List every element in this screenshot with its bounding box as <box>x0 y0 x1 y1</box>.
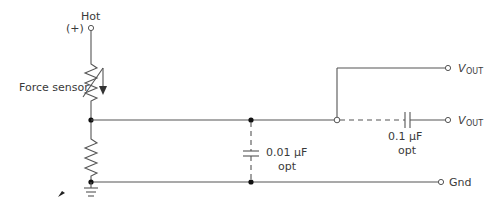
vout2-subscript: OUT <box>466 119 483 128</box>
junction-dot-cap1-bottom <box>248 179 253 184</box>
vout1-subscript: OUT <box>466 67 483 76</box>
hot-polarity-label: (+) <box>66 22 84 35</box>
vout2-terminal-node <box>445 117 450 122</box>
ground-icon <box>84 188 98 196</box>
hot-label: Hot <box>81 10 101 23</box>
circuit-diagram: Hot (+) Force sensor Gnd 0.01 µF opt V O… <box>0 0 497 209</box>
hot-terminal-node <box>88 25 93 30</box>
gnd-label: Gnd <box>449 176 471 189</box>
cap2-value-label: 0.1 µF <box>388 130 422 143</box>
cap1-value-label: 0.01 µF <box>266 146 307 159</box>
output-node <box>334 117 340 123</box>
fixed-resistor-icon <box>85 135 97 182</box>
gnd-terminal-node <box>438 179 443 184</box>
force-sensor-label: Force sensor <box>19 81 89 94</box>
cap2-note-label: opt <box>398 144 417 157</box>
cap1-note-label: opt <box>278 160 297 173</box>
vout1-terminal-node <box>445 65 450 70</box>
pen-mark-icon <box>58 191 65 197</box>
junction-dot-cap1-top <box>248 117 253 122</box>
arrow-down-icon <box>99 86 107 95</box>
